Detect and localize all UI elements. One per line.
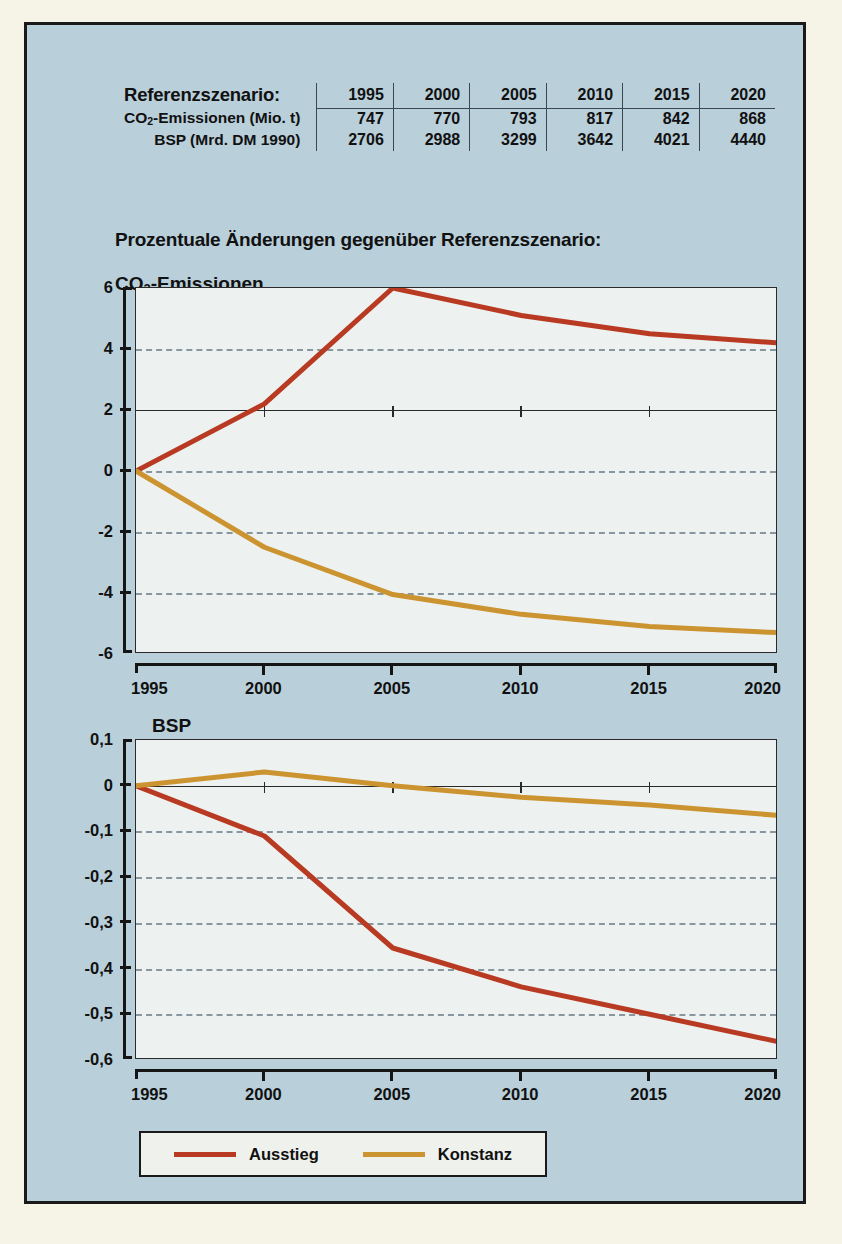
y-axis-tick: [120, 966, 131, 969]
x-axis-tick: [647, 1069, 650, 1081]
x-axis-label: 2005: [373, 1085, 410, 1104]
x-axis-label: 2010: [502, 1085, 539, 1104]
series-line-konstanz: [136, 772, 777, 815]
y-axis-tick: [120, 875, 131, 878]
legend-swatch-ausstieg: [174, 1152, 236, 1157]
y-axis-label: -0,3: [55, 912, 113, 931]
y-axis-label: -0,6: [55, 1050, 113, 1069]
legend-label-ausstieg: Ausstieg: [249, 1145, 319, 1164]
legend-label-konstanz: Konstanz: [438, 1145, 512, 1164]
y-axis-tick: [120, 829, 131, 832]
page-root: Referenzszenario:19952000200520102015202…: [0, 0, 842, 1244]
plot-area: [135, 739, 777, 1059]
y-axis-tick: [120, 783, 131, 786]
y-axis-label: -0,4: [55, 958, 113, 977]
y-axis-label: 0,1: [55, 730, 113, 749]
legend-item-konstanz: Konstanz: [363, 1145, 512, 1164]
x-axis-tick: [262, 1069, 265, 1081]
chart-bsp: 0,10-0,1-0,2-0,3-0,4-0,5-0,6199520002005…: [27, 25, 809, 1207]
y-axis-label: -0,1: [55, 821, 113, 840]
x-axis-label: 2020: [744, 1085, 781, 1104]
legend-swatch-konstanz: [363, 1152, 425, 1157]
figure-panel: Referenzszenario:19952000200520102015202…: [24, 22, 806, 1204]
legend-item-ausstieg: Ausstieg: [174, 1145, 319, 1164]
x-axis-label: 2000: [245, 1085, 282, 1104]
y-axis-label: -0,5: [55, 1004, 113, 1023]
y-axis-tick: [120, 1012, 131, 1015]
series-line-ausstieg: [136, 786, 777, 1042]
y-axis-label: 0: [55, 775, 113, 794]
y-axis-tick: [120, 920, 131, 923]
x-axis-label: 1995: [131, 1085, 168, 1104]
series-layer: [136, 740, 777, 1059]
x-axis-label: 2015: [630, 1085, 667, 1104]
x-axis: [135, 1069, 777, 1072]
x-axis-tick: [519, 1069, 522, 1081]
x-axis-tick: [390, 1069, 393, 1081]
y-axis-label: -0,2: [55, 867, 113, 886]
legend: Ausstieg Konstanz: [139, 1131, 547, 1177]
